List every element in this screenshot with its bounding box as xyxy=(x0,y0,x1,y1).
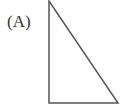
figure-a: (A) xyxy=(0,0,121,107)
right-triangle-shape xyxy=(0,0,121,107)
